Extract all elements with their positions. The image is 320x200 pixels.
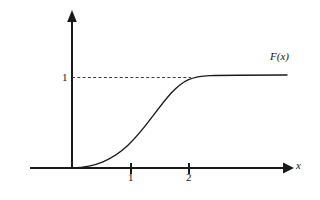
y-axis-arrow-icon xyxy=(67,10,77,22)
cdf-curve xyxy=(72,75,287,168)
x-axis-arrow-icon xyxy=(283,163,294,174)
plot-canvas xyxy=(0,0,320,200)
y-axis-value-label-one: 1 xyxy=(62,72,68,83)
x-axis-tick-label-1: 1 xyxy=(128,172,134,183)
cdf-figure: 1 2 1 F(x) x xyxy=(0,0,320,200)
x-axis-name-label: x xyxy=(296,160,301,171)
series-label-fx: F(x) xyxy=(270,51,289,62)
x-axis-tick-label-2: 2 xyxy=(186,172,192,183)
